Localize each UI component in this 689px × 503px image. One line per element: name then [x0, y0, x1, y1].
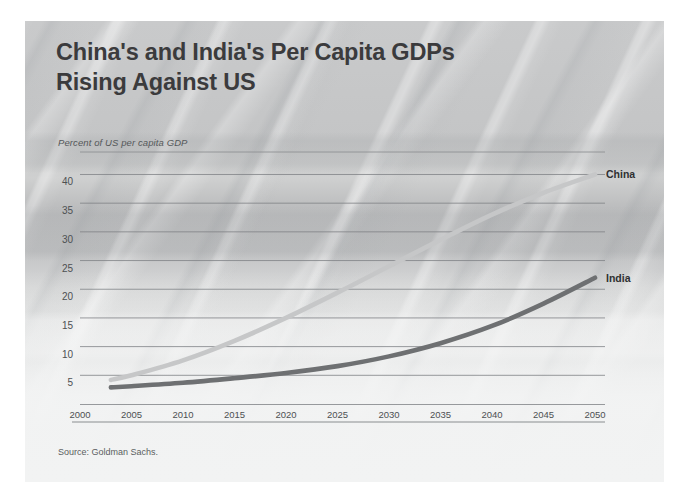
source-note: Source: Goldman Sachs. [58, 447, 158, 457]
x-axis-tick: 2050 [573, 409, 617, 420]
x-axis-tick: 2045 [522, 409, 566, 420]
y-axis-tick: 25 [47, 263, 73, 274]
x-axis-tick: 2040 [470, 409, 514, 420]
slide-canvas: China's and India's Per Capita GDPs Risi… [25, 21, 664, 482]
y-axis-tick: 40 [47, 176, 73, 187]
y-axis-tick: 20 [47, 291, 73, 302]
y-axis-tick: 30 [47, 234, 73, 245]
y-axis-tick: 5 [47, 377, 73, 388]
x-axis-tick: 2025 [316, 409, 360, 420]
x-axis-tick: 2010 [161, 409, 205, 420]
y-axis-label: Percent of US per capita GDP [58, 137, 188, 148]
x-axis-tick: 2000 [58, 409, 102, 420]
x-axis-tick: 2035 [419, 409, 463, 420]
series-label-india: India [606, 272, 631, 284]
x-axis-tick: 2005 [110, 409, 154, 420]
y-axis-tick: 10 [47, 349, 73, 360]
x-axis-tick: 2030 [367, 409, 411, 420]
x-axis-tick: 2015 [213, 409, 257, 420]
series-label-china: China [606, 168, 635, 180]
y-axis-tick: 15 [47, 320, 73, 331]
line-chart: Percent of US per capita GDP 51015202530… [25, 21, 664, 482]
x-axis-tick: 2020 [264, 409, 308, 420]
y-axis-tick: 35 [47, 205, 73, 216]
